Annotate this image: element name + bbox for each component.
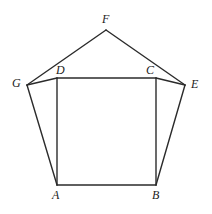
label-E: E bbox=[191, 78, 198, 90]
geometry-figure: FGDCEAB bbox=[0, 0, 212, 214]
segment-E-B bbox=[156, 85, 185, 185]
label-A: A bbox=[52, 189, 59, 201]
segment-G-F bbox=[27, 30, 106, 85]
label-F: F bbox=[102, 13, 109, 25]
segment-A-G bbox=[27, 85, 57, 185]
label-B: B bbox=[152, 189, 159, 201]
label-G: G bbox=[12, 77, 21, 89]
label-D: D bbox=[56, 64, 65, 76]
label-C: C bbox=[146, 64, 154, 76]
geometry-canvas bbox=[0, 0, 212, 214]
segment-layer bbox=[27, 30, 185, 185]
